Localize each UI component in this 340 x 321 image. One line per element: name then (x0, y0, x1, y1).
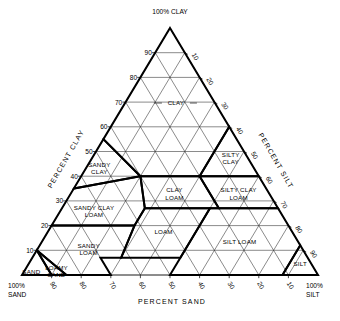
class-label-sandy-loam-line1: SANDY (77, 242, 99, 249)
class-label-sandy-clay: SANDYCLAY (88, 161, 110, 175)
class-label-clay: CLAY (168, 99, 185, 106)
class-label-sandy-clay-loam-line2: LOAM (85, 211, 103, 218)
class-label-clay-line1: CLAY (168, 99, 185, 106)
tick-label-silt-80: 80 (294, 224, 304, 234)
tick-label-silt-60: 60 (265, 175, 275, 185)
class-label-clay-loam-line2: LOAM (165, 194, 183, 201)
axis-ticks-group (34, 53, 307, 279)
class-label-silty-clay: SILTYCLAY (222, 151, 240, 165)
tick-label-silt-20: 20 (205, 76, 215, 86)
tick-label-sand-20: 20 (256, 280, 266, 290)
bottom-left-corner-label-line2: SAND (8, 291, 27, 298)
class-label-silt-loam: SILT LOAM (223, 238, 257, 245)
tick-label-silt-10: 10 (191, 52, 201, 62)
class-label-silt-loam-line1: SILT LOAM (223, 238, 257, 245)
tick-label-sand-60: 60 (138, 280, 148, 290)
gridline-silt-10 (52, 53, 185, 275)
class-label-silt: SILT (294, 260, 307, 267)
tick-label-silt-30: 30 (220, 101, 230, 111)
class-label-sandy-clay-loam: SANDY CLAYLOAM (74, 204, 115, 218)
class-label-sandy-clay-line2: CLAY (91, 168, 108, 175)
class-label-loam-line1: LOAM (154, 228, 172, 235)
tick-label-clay-40: 40 (71, 173, 79, 180)
tick-label-sand-10: 10 (286, 280, 296, 290)
tick-label-clay-80: 80 (130, 74, 138, 81)
tick-label-silt-70: 70 (279, 200, 289, 210)
tick-label-clay-60: 60 (100, 123, 108, 130)
gridline-silt-30 (111, 102, 215, 275)
class-label-sandy-loam-line2: LOAM (79, 249, 97, 256)
class-label-silt-line1: SILT (294, 260, 307, 267)
class-label-silty-clay-line2: CLAY (222, 158, 239, 165)
tick-label-silt-90: 90 (309, 249, 319, 259)
right-axis-title: PERCENT SILT (257, 132, 294, 190)
bottom-left-corner-label-line1: 100% (8, 282, 25, 289)
tick-label-sand-90: 90 (49, 280, 59, 290)
tick-label-sand-80: 80 (78, 280, 88, 290)
class-label-loam: LOAM (154, 228, 172, 235)
tick-label-silt-50: 50 (250, 150, 260, 160)
class-label-sandy-loam: SANDYLOAM (77, 242, 99, 256)
tick-label-sand-30: 30 (226, 280, 236, 290)
class-label-loamy-sand-line2: SAND (48, 271, 66, 278)
tick-label-clay-30: 30 (56, 197, 64, 204)
tick-label-clay-10: 10 (26, 247, 34, 254)
tick-label-silt-40: 40 (235, 126, 245, 136)
class-label-clay-loam-line1: CLAY (166, 186, 183, 193)
class-label-silty-clay-loam-line1: SILTY CLAY (221, 186, 257, 193)
class-label-sand-line1: SAND (22, 268, 40, 275)
ternary-diagram-canvas: 1010902020803030704040605050506060407070… (0, 0, 340, 321)
class-label-clay-loam: CLAYLOAM (165, 186, 183, 200)
tick-label-clay-70: 70 (115, 99, 123, 106)
texture-class-labels: CLAYSILTYCLAYSANDYCLAYSILTY CLAYLOAMCLAY… (22, 99, 307, 278)
bottom-right-corner-label-line1: 100% (306, 282, 323, 289)
class-label-silty-clay-loam: SILTY CLAYLOAM (221, 186, 257, 200)
class-label-loamy-sand: LOAMYSAND (45, 264, 68, 278)
tick-label-clay-50: 50 (85, 148, 93, 155)
class-label-loamy-sand-line1: LOAMY (45, 264, 68, 271)
bottom-axis-title: PERCENT SAND (138, 298, 206, 305)
bottom-right-corner-label-line2: SILT (306, 291, 319, 298)
class-label-sandy-clay-loam-line1: SANDY CLAY (74, 204, 115, 211)
class-label-sandy-clay-line1: SANDY (88, 161, 110, 168)
soil-texture-triangle-figure: 1010902020803030704040605050506060407070… (0, 0, 340, 321)
tick-label-sand-70: 70 (108, 280, 118, 290)
class-label-sand: SAND (22, 268, 40, 275)
apex-label: 100% CLAY (152, 8, 188, 15)
tick-label-clay-90: 90 (145, 49, 153, 56)
tick-label-sand-50: 50 (167, 280, 177, 290)
tick-label-sand-40: 40 (197, 280, 207, 290)
class-label-silty-clay-line1: SILTY (222, 151, 240, 158)
tick-label-clay-20: 20 (41, 222, 49, 229)
tick-labels-group: 1010902020803030704040605050506060407070… (26, 49, 319, 290)
class-label-silty-clay-loam-line2: LOAM (229, 194, 247, 201)
